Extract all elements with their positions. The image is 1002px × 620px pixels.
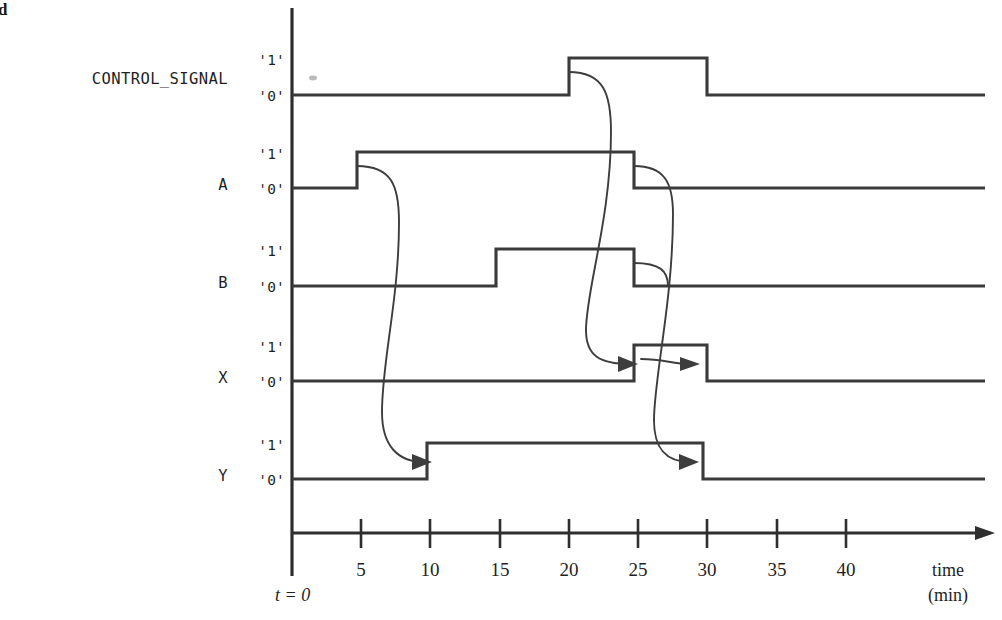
level-label-y-high: '1' [258,437,285,453]
tick-label-25: 25 [629,559,648,580]
signal-label-control-signal: CONTROL_SIGNAL [92,70,228,88]
tick-label-15: 15 [491,559,510,580]
causal-arrowhead-x-fall [680,357,700,371]
causal-arrow-a-rise-to-y-rise [357,166,432,470]
level-label-b-high: '1' [258,243,285,259]
tick-label-35: 35 [768,559,787,580]
level-label-a-low: '0' [258,181,285,197]
causal-arrow-control-rise-to-x-rise [569,72,638,372]
causal-arrow-a-fall-to-y-fall [634,166,699,470]
timing-diagram-canvas: CONTROL_SIGNAL A B X Y '1' '0' '1' '0' '… [0,0,1002,620]
scan-artifact-speck [309,76,317,81]
waveform-x [292,345,985,381]
tick-label-10: 10 [421,559,440,580]
level-label-x-low: '0' [258,374,285,390]
waveform-control-signal [292,58,985,95]
signal-label-x: X [218,369,228,387]
level-label-b-low: '0' [258,279,285,295]
level-label-x-high: '1' [258,339,285,355]
tick-label-30: 30 [698,559,717,580]
time-axis-tick-labels: 5 10 15 20 25 30 35 40 [356,559,855,580]
level-label-y-low: '0' [258,472,285,488]
signal-label-a: A [218,176,228,194]
level-label-control-signal-low: '0' [258,88,285,104]
origin-time-label: t = 0 [275,585,310,605]
signal-label-b: B [218,274,228,292]
level-label-a-high: '1' [258,146,285,162]
tick-label-40: 40 [837,559,856,580]
signal-label-y: Y [218,467,228,485]
tick-label-20: 20 [560,559,579,580]
waveform-y [292,443,985,479]
axis-title-time: time [932,560,964,580]
timing-diagram-figure: d CONTROL_SIGNAL A B X Y '1' '0' '1' '0'… [0,0,1002,620]
level-label-control-signal-high: '1' [258,52,285,68]
time-axis-arrowhead [975,526,995,540]
causal-arrowhead-y-fall [679,454,699,470]
axis-title-unit: (min) [928,585,968,606]
waveform-a [292,152,985,188]
causal-arrow-b-fall-to-x-fall [634,263,700,371]
causal-arrowhead-y-rise [412,454,432,470]
tick-label-5: 5 [356,559,366,580]
